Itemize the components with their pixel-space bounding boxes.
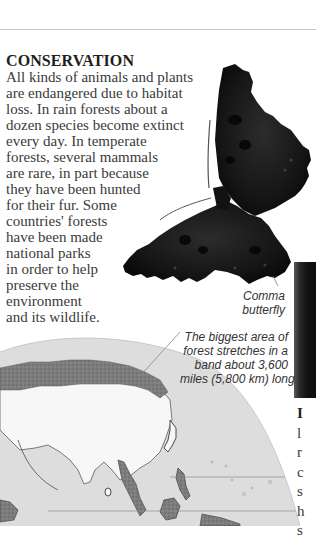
section-body: All kinds of animals and plants are enda…: [6, 69, 196, 325]
body-line: loss. In rain forests about a: [6, 101, 196, 117]
column-line: l: [297, 424, 320, 444]
body-line: have been made: [6, 229, 196, 245]
body-line: are rare, in part because: [6, 165, 196, 181]
body-line: for their fur. Some: [6, 197, 196, 213]
body-line: in order to help: [6, 261, 196, 277]
body-line: and its wildlife.: [6, 309, 196, 325]
cropped-right-column-text: I l r c s h s: [297, 404, 320, 539]
caption-line: band about 3,600: [180, 358, 288, 372]
butterfly-caption: Comma butterfly: [230, 289, 285, 317]
body-line: every day. In temperate: [6, 133, 196, 149]
caption-line: forest stretches in a: [180, 344, 288, 358]
conservation-section: CONSERVATION All kinds of animals and pl…: [6, 52, 196, 325]
column-line: I: [297, 404, 320, 424]
body-line: forests, several mammals: [6, 149, 196, 165]
body-line: national parks: [6, 245, 196, 261]
body-line: preserve the: [6, 277, 196, 293]
body-line: environment: [6, 293, 196, 309]
column-line: c: [297, 463, 320, 483]
top-rule: [0, 29, 316, 30]
body-line: are endangered due to habitat: [6, 85, 196, 101]
column-line: s: [297, 482, 320, 502]
column-line: h: [297, 502, 320, 522]
body-line: countries' forests: [6, 213, 196, 229]
caption-line: butterfly: [230, 303, 285, 317]
column-line: r: [297, 443, 320, 463]
section-heading: CONSERVATION: [6, 52, 196, 69]
forest-caption: The biggest area of forest stretches in …: [180, 330, 288, 386]
column-line: s: [297, 521, 320, 539]
caption-line: miles (5,800 km) long.: [180, 372, 288, 386]
body-line: dozen species become extinct: [6, 117, 196, 133]
caption-line: Comma: [230, 289, 285, 303]
body-line: All kinds of animals and plants: [6, 69, 196, 85]
caption-line: The biggest area of: [180, 330, 288, 344]
body-line: they have been hunted: [6, 181, 196, 197]
